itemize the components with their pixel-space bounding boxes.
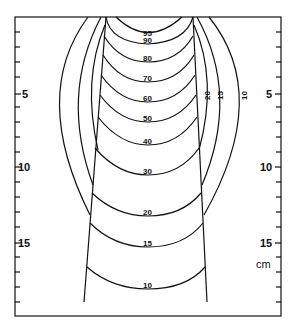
left-axis-label-15: 15 (18, 237, 30, 249)
svg-text:15: 15 (143, 239, 152, 248)
right-axis-label-5: 5 (266, 88, 272, 100)
svg-text:20: 20 (143, 208, 152, 217)
central-isodose-labels: 95 90 80 70 60 50 40 30 20 15 10 (143, 29, 152, 290)
svg-text:40: 40 (143, 137, 152, 146)
isodose-chart: 5 10 15 5 10 15 cm 95 90 80 70 60 50 40 … (0, 0, 296, 334)
unit-label: cm (256, 258, 271, 270)
left-axis-label-5: 5 (22, 88, 28, 100)
svg-text:60: 60 (143, 94, 152, 103)
svg-text:30: 30 (143, 167, 152, 176)
lateral-label-20: 20 (203, 91, 212, 100)
svg-text:80: 80 (143, 54, 152, 63)
right-axis-label-10: 10 (260, 161, 272, 173)
lateral-left-15 (78, 17, 101, 185)
right-axis-ticks (275, 32, 281, 302)
lateral-label-15: 15 (216, 91, 225, 100)
svg-text:70: 70 (143, 74, 152, 83)
svg-text:10: 10 (143, 281, 152, 290)
lateral-left-10 (59, 17, 90, 215)
lateral-label-10: 10 (240, 91, 249, 100)
lateral-right-10 (204, 17, 239, 215)
svg-text:50: 50 (143, 114, 152, 123)
left-axis-label-10: 10 (18, 161, 30, 173)
lateral-left-20 (91, 25, 105, 150)
svg-text:90: 90 (143, 36, 152, 45)
right-axis-label-15: 15 (260, 237, 272, 249)
